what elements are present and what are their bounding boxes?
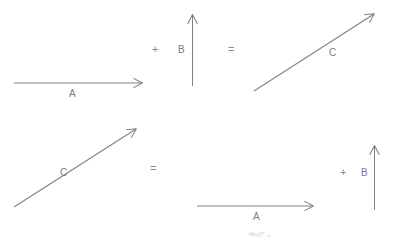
vector-addition-figure: A + B = C C = A + B (0, 0, 398, 247)
operator-equals-top: = (228, 44, 234, 55)
vector-arrows-canvas (0, 0, 398, 247)
vector-label-bottom-b: B (361, 168, 368, 178)
vector-label-bottom-a: A (253, 212, 260, 222)
operator-equals-bottom: = (150, 163, 156, 174)
vector-label-top-c: C (329, 48, 336, 58)
vector-label-top-b: B (178, 45, 185, 55)
operator-plus-bottom: + (340, 167, 346, 178)
vector-arrow-bottom-c (14, 129, 136, 207)
vector-label-bottom-c: C (60, 168, 67, 178)
vector-label-top-a: A (69, 89, 76, 99)
operator-plus-top: + (152, 44, 158, 55)
vector-arrow-top-c (254, 14, 374, 91)
